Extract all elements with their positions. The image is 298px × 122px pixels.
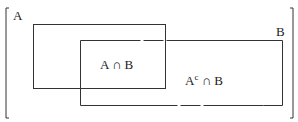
left-bracket (6, 8, 9, 118)
region-acomp-intersect-b-label: Ac ∩ B (185, 74, 223, 87)
complement-superscript: c (194, 72, 198, 82)
region-a-intersect-b-label: A ∩ B (100, 58, 133, 71)
acomp-base: A (185, 73, 194, 88)
set-a-label: A (13, 9, 22, 22)
diagram-shapes (0, 0, 298, 122)
acomp-rest: ∩ B (198, 73, 223, 88)
set-b-rect (81, 41, 283, 106)
right-bracket (290, 8, 293, 118)
set-b-label: B (276, 25, 285, 38)
venn-diagram: A B A ∩ B Ac ∩ B (0, 0, 298, 122)
